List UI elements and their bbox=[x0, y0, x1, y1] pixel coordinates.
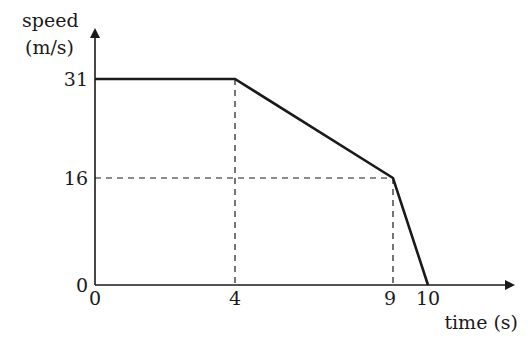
y-axis-label-line1: speed bbox=[22, 9, 79, 31]
y-tick-0: 0 bbox=[76, 274, 88, 296]
y-tick-16: 16 bbox=[64, 167, 88, 189]
x-tick-10: 10 bbox=[416, 287, 440, 309]
reference-lines bbox=[95, 79, 393, 285]
x-axis-label: time (s) bbox=[444, 311, 518, 333]
x-tick-4: 4 bbox=[229, 287, 241, 309]
speed-line bbox=[95, 79, 428, 285]
x-tick-0: 0 bbox=[89, 287, 101, 309]
y-tick-31: 31 bbox=[64, 68, 88, 90]
speed-time-graph: speed (m/s) 31 16 0 0 4 9 10 time (s) bbox=[0, 0, 528, 342]
x-tick-9: 9 bbox=[384, 287, 396, 309]
y-axis-label-line2: (m/s) bbox=[25, 36, 74, 58]
